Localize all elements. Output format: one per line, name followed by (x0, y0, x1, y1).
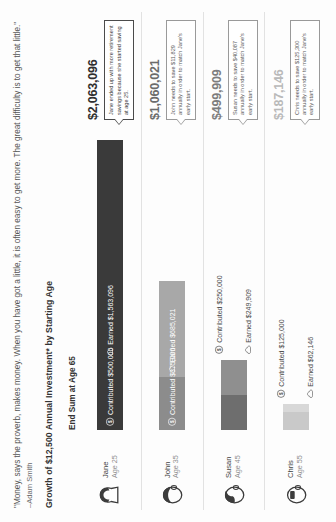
infographic-frame: "Money, says the proverb, makes money. W… (0, 0, 336, 522)
earned-label-text: Earned $249,909 (245, 289, 252, 343)
end-sum-value: $2,063,096 (86, 12, 100, 120)
quote-text: "Money, says the proverb, makes money. W… (12, 12, 23, 508)
end-sum-cell: $499,909Susan needs to save $40,087 annu… (204, 12, 265, 126)
earned-label-text: Earned $685,021 (169, 309, 176, 363)
dollar-circle-icon: $ (277, 389, 286, 398)
bar-zone: $Contributed $375,000Earned $685,021 (142, 126, 203, 430)
callout-box: Susan needs to save $40,087 annually in … (228, 20, 258, 120)
stacked-bar (221, 360, 247, 430)
contributed-label: $Contributed $500,000 (106, 348, 115, 426)
earned-label-text: Earned $62,146 (307, 337, 314, 387)
bar-zone: $Contributed $125,000Earned $62,146 (265, 126, 326, 430)
chart-row: SusanAge 45$Contributed $250,000Earned $… (203, 12, 265, 510)
earned-label-text: Earned $1,563,096 (107, 285, 114, 345)
earned-label: Earned $1,563,096 (106, 285, 115, 356)
dollar-circle-icon: $ (168, 418, 177, 427)
person-age: Age 25 (111, 455, 119, 478)
svg-text:$: $ (279, 392, 284, 395)
end-sum-header: End Sum at Age 65 (61, 12, 79, 430)
bar-segment-earned (283, 404, 309, 413)
person-female2-icon (221, 482, 247, 508)
contributed-label: $Contributed $250,000 (215, 275, 224, 353)
person-male-icon (159, 482, 185, 508)
earned-label: Earned $249,909 (244, 289, 253, 354)
bar-zone: $Contributed $500,000Earned $1,563,096 (80, 126, 141, 430)
chart-row: JohnAge 35$Contributed $375,000Earned $6… (141, 12, 203, 510)
chart-header-row: End Sum at Age 65 (61, 12, 79, 508)
chart-title: Growth of $12,500 Annual Investment* by … (44, 12, 54, 508)
end-sum-header-label: End Sum at Age 65 (68, 356, 77, 430)
earned-label: Earned $685,021 (168, 309, 177, 374)
chart-rows: JaneAge 25$Contributed $500,000Earned $1… (80, 12, 326, 510)
contributed-label-text: Contributed $250,000 (216, 275, 223, 342)
person-block: ChrisAge 55 (265, 430, 326, 510)
person-block: SusanAge 45 (204, 430, 265, 510)
quote-attribution: –Adam Smith (24, 12, 35, 508)
end-sum-value: $187,146 (272, 12, 286, 120)
dollar-circle-icon: $ (215, 345, 224, 354)
chart-row: JaneAge 25$Contributed $500,000Earned $1… (80, 12, 141, 510)
dollar-circle-icon: $ (106, 418, 115, 427)
end-sum-cell: $2,063,096Jane ended up with more retire… (80, 12, 141, 126)
bar-segment-contributed (283, 412, 309, 430)
bar-zone: $Contributed $250,000Earned $249,909 (204, 126, 265, 430)
person-female-icon (97, 482, 123, 508)
bar-segment-contributed (221, 395, 247, 430)
chart-row: ChrisAge 55$Contributed $125,000Earned $… (264, 12, 326, 510)
end-sum-cell: $1,060,021John needs to save $11,829 ann… (142, 12, 203, 126)
quote-block: "Money, says the proverb, makes money. W… (12, 12, 35, 508)
person-age: Age 55 (296, 455, 304, 478)
svg-text:$: $ (170, 420, 175, 423)
stacked-bar (283, 404, 309, 430)
contributed-label-text: Contributed $500,000 (107, 348, 114, 415)
cloud-growth-icon (168, 365, 177, 374)
infographic-canvas: "Money, says the proverb, makes money. W… (0, 0, 336, 522)
end-sum-cell: $187,146Chris needs to save $125,300 ann… (265, 12, 326, 126)
cloud-growth-icon (306, 389, 315, 398)
svg-text:$: $ (217, 348, 222, 351)
svg-text:$: $ (108, 420, 113, 423)
end-sum-value: $1,060,021 (148, 12, 162, 120)
person-male2-icon (283, 482, 309, 508)
contributed-label: $Contributed $125,000 (277, 319, 286, 397)
bar-segment-earned (221, 360, 247, 395)
callout-box: John needs to save $11,829 annually in o… (166, 20, 196, 120)
person-block: JohnAge 35 (142, 430, 203, 510)
person-age: Age 35 (172, 455, 180, 478)
cloud-growth-icon (244, 345, 253, 354)
person-block: JaneAge 25 (80, 430, 141, 510)
callout-box: Chris needs to save $125,300 annually in… (290, 20, 320, 120)
end-sum-value: $499,909 (210, 12, 224, 120)
earned-label: Earned $62,146 (306, 337, 315, 398)
person-age: Age 45 (234, 455, 242, 478)
cloud-growth-icon (106, 347, 115, 356)
callout-box: Jane ended up with more retirement savin… (104, 20, 134, 120)
contributed-label-text: Contributed $125,000 (278, 319, 285, 386)
